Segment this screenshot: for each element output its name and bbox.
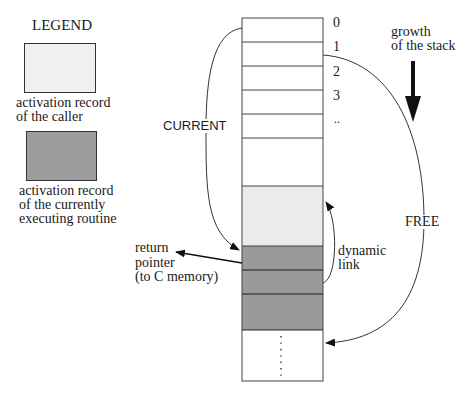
dynamic-link-label-2: link [338, 258, 360, 272]
return-pointer-label-3: (to C memory) [135, 270, 218, 284]
growth-label-1: growth [391, 25, 431, 39]
return-pointer-label-2: pointer [135, 256, 175, 270]
stack-index-3: 3 [333, 89, 340, 103]
current-label: CURRENT [163, 119, 227, 133]
stack-index-1: 1 [333, 40, 340, 54]
current-activation-record [242, 246, 323, 330]
stack-index-0: 0 [333, 16, 340, 30]
growth-arrow-icon [405, 61, 421, 122]
free-area [242, 330, 323, 381]
caller-activation-record [242, 186, 323, 246]
return-pointer-arrow [176, 252, 242, 263]
stack-cells [242, 18, 323, 381]
stack-diagram: LEGEND activation record of the caller a… [0, 0, 468, 394]
dynamic-link-label-1: dynamic [338, 244, 386, 258]
growth-label-2: of the stack [391, 39, 456, 53]
free-label: FREE [405, 215, 439, 229]
stack-index-more: .. [334, 112, 340, 126]
stack-graphic [0, 0, 468, 394]
dynamic-link-arrow [323, 202, 335, 283]
current-pointer-arrow [206, 28, 242, 250]
return-pointer-label-1: return [135, 241, 168, 255]
stack-index-2: 2 [333, 65, 340, 79]
